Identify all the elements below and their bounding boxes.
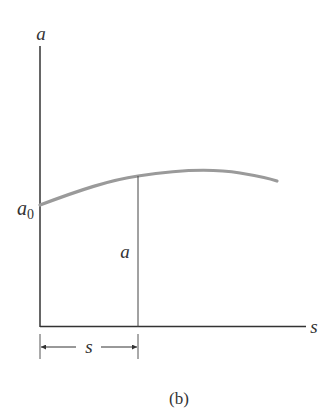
acceleration-position-diagram: a s a0 a s (b) [0, 0, 332, 416]
y-intercept-label: a0 [17, 197, 34, 222]
ordinate-label: a [120, 241, 130, 262]
figure-caption: (b) [169, 389, 189, 408]
acceleration-curve [40, 170, 277, 205]
distance-label: s [85, 336, 92, 357]
y-axis-label: a [36, 23, 46, 44]
x-axis-label: s [310, 316, 317, 337]
